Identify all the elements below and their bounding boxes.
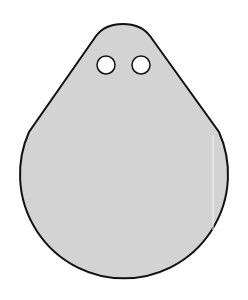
diagram-canvas [0, 0, 248, 300]
hole-right [132, 56, 150, 74]
pear-plate-diagram [0, 0, 248, 300]
hole-left [97, 56, 115, 74]
plate-body [20, 24, 228, 278]
